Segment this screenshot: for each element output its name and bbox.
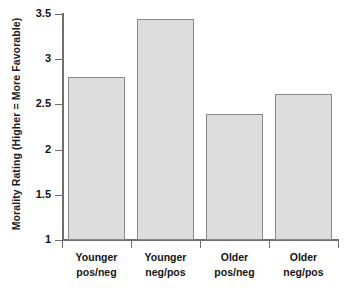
y-tick-label: 1.5 — [36, 188, 51, 200]
x-axis-category-label: Olderpos/neg — [200, 250, 269, 280]
x-axis-category-line: pos/neg — [62, 265, 131, 280]
bar-chart: Morality Rating (Higher = More Favorable… — [0, 0, 347, 289]
x-axis-category-line: Older — [200, 250, 269, 265]
x-axis-category-line: pos/neg — [200, 265, 269, 280]
x-axis-category-label: Olderneg/pos — [269, 250, 338, 280]
x-axis-category-label: Youngerneg/pos — [131, 250, 200, 280]
y-tick-label: 2.5 — [36, 97, 51, 109]
bar — [206, 114, 263, 240]
plot-area: 11.522.533.5 — [62, 14, 338, 240]
x-axis-labels: Youngerpos/negYoungerneg/posOlderpos/neg… — [62, 250, 339, 288]
y-tick: 3.5 — [55, 14, 62, 15]
y-tick-label: 3 — [45, 52, 51, 64]
y-tick: 1.5 — [55, 195, 62, 196]
bar — [68, 77, 125, 240]
y-tick: 2.5 — [55, 104, 62, 105]
y-axis-title: Morality Rating (Higher = More Favorable… — [10, 4, 22, 244]
y-tick-label: 1 — [45, 233, 51, 245]
x-tick — [338, 240, 339, 248]
y-tick: 1 — [55, 240, 62, 241]
bar — [137, 19, 194, 240]
x-axis-category-line: Younger — [131, 250, 200, 265]
y-tick-label: 2 — [45, 143, 51, 155]
x-tick — [131, 240, 132, 248]
x-axis-category-line: Older — [269, 250, 338, 265]
y-tick-label: 3.5 — [36, 7, 51, 19]
y-tick: 2 — [55, 150, 62, 151]
x-tick — [62, 240, 63, 248]
x-axis-category-line: neg/pos — [131, 265, 200, 280]
x-axis-category-label: Youngerpos/neg — [62, 250, 131, 280]
bar — [275, 94, 332, 240]
x-tick — [200, 240, 201, 248]
x-axis-category-line: Younger — [62, 250, 131, 265]
y-tick: 3 — [55, 59, 62, 60]
x-axis-category-line: neg/pos — [269, 265, 338, 280]
x-tick — [269, 240, 270, 248]
